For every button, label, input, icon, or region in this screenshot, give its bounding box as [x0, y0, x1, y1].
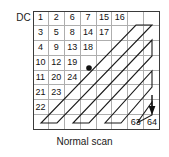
grid-cell [65, 85, 81, 100]
grid-cell [81, 85, 97, 100]
grid-cell [128, 100, 144, 115]
grid-cell: 12 [49, 56, 65, 71]
grid-cell [49, 100, 65, 115]
grid-cell: 15 [97, 11, 113, 26]
grid-cell: 21 [33, 85, 49, 100]
grid-cell [112, 85, 128, 100]
grid-cell: 20 [49, 71, 65, 86]
grid-cell [97, 71, 113, 86]
grid-cell [144, 11, 160, 26]
grid-cell [144, 26, 160, 41]
grid-cell [128, 85, 144, 100]
grid-cell [97, 115, 113, 130]
scan-grid: 1 2 6 7 15 16 3 5 8 14 17 4 9 13 18 10 [33, 11, 160, 130]
grid-cell: 24 [65, 71, 81, 86]
grid-cell: 13 [65, 41, 81, 56]
grid-cell [128, 41, 144, 56]
grid-cell: 5 [49, 26, 65, 41]
grid-cell [97, 41, 113, 56]
grid-cell [112, 56, 128, 71]
grid-cell: 1 [33, 11, 49, 26]
grid-cell: 17 [97, 26, 113, 41]
grid-cell: 23 [49, 85, 65, 100]
grid-cell [144, 85, 160, 100]
grid-cell [65, 115, 81, 130]
figure-zigzag-scan: DC 1 2 6 7 15 16 3 5 8 14 17 4 9 13 18 [0, 0, 169, 157]
grid-cell: 22 [33, 100, 49, 115]
scan-grid-wrapper: 1 2 6 7 15 16 3 5 8 14 17 4 9 13 18 10 [33, 11, 160, 130]
grid-cell [144, 41, 160, 56]
grid-cell [33, 115, 49, 130]
grid-cell: 8 [65, 26, 81, 41]
grid-cell [81, 56, 97, 71]
grid-cell: 19 [65, 56, 81, 71]
grid-cell: 9 [49, 41, 65, 56]
grid-cell [128, 56, 144, 71]
grid-cell: 7 [81, 11, 97, 26]
grid-cell: 3 [33, 26, 49, 41]
grid-cell: 10 [33, 56, 49, 71]
grid-cell [81, 100, 97, 115]
grid-cell [81, 115, 97, 130]
grid-cell: 64 [144, 115, 160, 130]
grid-cell [97, 85, 113, 100]
grid-cell: 16 [112, 11, 128, 26]
grid-cell: 18 [81, 41, 97, 56]
grid-cell [144, 71, 160, 86]
grid-cell [49, 115, 65, 130]
grid-cell [128, 11, 144, 26]
dc-label: DC [4, 12, 31, 24]
grid-cell [97, 56, 113, 71]
figure-caption: Normal scan [0, 136, 169, 148]
grid-cell [112, 115, 128, 130]
grid-cell [112, 100, 128, 115]
grid-cell [97, 100, 113, 115]
grid-cell [144, 100, 160, 115]
grid-cell: 6 [65, 11, 81, 26]
grid-cell: 2 [49, 11, 65, 26]
grid-cell [112, 71, 128, 86]
grid-cell [81, 71, 97, 86]
grid-cell [65, 100, 81, 115]
grid-cell [128, 26, 144, 41]
grid-cell [128, 71, 144, 86]
grid-cell [112, 26, 128, 41]
grid-cell [112, 41, 128, 56]
grid-cell: 11 [33, 71, 49, 86]
grid-cell: 4 [33, 41, 49, 56]
grid-cell [144, 56, 160, 71]
grid-cell: 14 [81, 26, 97, 41]
grid-cell: 63 [128, 115, 144, 130]
